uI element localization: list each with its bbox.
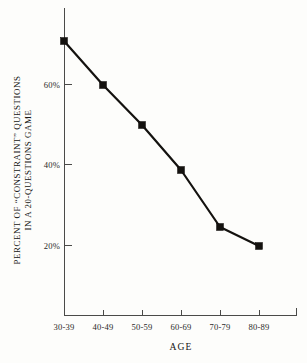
- x-tick-label-80-89: 80-89: [248, 322, 269, 332]
- x-tick-label-70-79: 70-79: [209, 322, 230, 332]
- data-point-50-59: [139, 122, 146, 129]
- x-axis-ticks: [65, 308, 260, 316]
- x-tick-label-50-59: 50-59: [131, 322, 152, 332]
- data-series-line: [64, 41, 259, 246]
- data-point-30-39: [61, 38, 68, 45]
- data-point-60-69: [178, 167, 185, 174]
- y-axis-ticks: [65, 85, 73, 246]
- x-tick-label-40-49: 40-49: [92, 322, 113, 332]
- y-axis-title: PERCENT OF “CONSTRAINT” QUESTIONS IN A 2…: [12, 76, 33, 265]
- chart-figure: 60% 40% 20% 30-39 40-49 50-59 60-69 70-7…: [0, 0, 307, 363]
- y-tick-label-40: 40%: [44, 160, 60, 170]
- data-point-70-79: [217, 224, 224, 231]
- y-axis-tick-labels: 60% 40% 20%: [44, 80, 60, 251]
- data-point-40-49: [100, 82, 107, 89]
- x-axis-title: AGE: [169, 341, 192, 352]
- x-tick-label-30-39: 30-39: [53, 322, 74, 332]
- data-point-80-89: [256, 243, 263, 250]
- y-tick-label-60: 60%: [44, 80, 60, 90]
- data-point-markers: [61, 38, 263, 250]
- x-tick-label-60-69: 60-69: [170, 322, 191, 332]
- chart-canvas: 60% 40% 20% 30-39 40-49 50-59 60-69 70-7…: [0, 0, 307, 363]
- y-tick-label-20: 20%: [44, 241, 60, 251]
- x-axis-tick-labels: 30-39 40-49 50-59 60-69 70-79 80-89: [53, 322, 269, 332]
- y-axis-title-line-2: IN A 20-QUESTIONS GAME: [23, 110, 33, 231]
- y-axis-title-line-1: PERCENT OF “CONSTRAINT” QUESTIONS: [12, 76, 22, 265]
